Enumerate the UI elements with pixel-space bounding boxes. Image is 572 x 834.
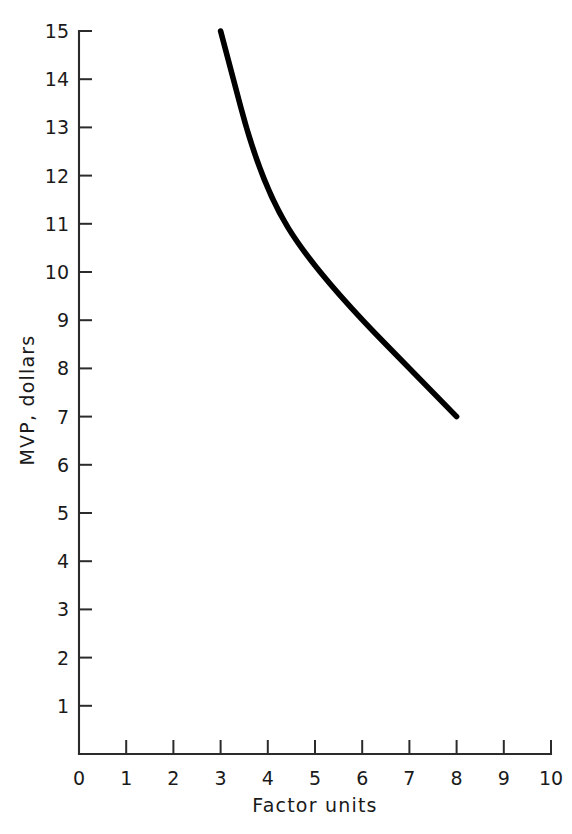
x-tick-label: 8 [451, 767, 463, 789]
x-tick-label: 7 [403, 767, 415, 789]
y-tick-label: 10 [45, 261, 69, 283]
y-tick-label: 12 [45, 165, 69, 187]
y-tick-label: 6 [57, 454, 69, 476]
x-tick-label: 2 [167, 767, 179, 789]
x-tick-label: 0 [73, 767, 85, 789]
y-tick-label: 14 [45, 68, 69, 90]
y-tick-label: 3 [57, 598, 69, 620]
y-tick-label: 13 [45, 116, 69, 138]
y-tick-label: 1 [57, 695, 69, 717]
y-tick-label: 9 [57, 309, 69, 331]
y-tick-label: 8 [57, 357, 69, 379]
data-line-mvp [221, 31, 457, 417]
x-tick-label: 4 [262, 767, 274, 789]
y-tick-label: 4 [57, 550, 69, 572]
x-tick-label: 5 [309, 767, 321, 789]
y-axis-tick-marks [79, 31, 92, 706]
chart-figure: 123456789101112131415 012345678910 MVP, … [0, 0, 572, 834]
y-tick-label: 11 [45, 213, 69, 235]
x-tick-label: 3 [215, 767, 227, 789]
x-tick-label: 10 [539, 767, 563, 789]
y-tick-label: 2 [57, 647, 69, 669]
y-tick-label: 7 [57, 406, 69, 428]
y-axis-title: MVP, dollars [16, 335, 38, 466]
data-series-group [221, 31, 457, 417]
x-axis-tick-labels: 012345678910 [73, 767, 563, 789]
x-axis-tick-marks [126, 740, 551, 754]
x-axis-title: Factor units [252, 794, 377, 816]
x-tick-label: 6 [356, 767, 368, 789]
y-axis-tick-labels: 123456789101112131415 [45, 20, 69, 717]
y-tick-label: 15 [45, 20, 69, 42]
x-tick-label: 9 [498, 767, 510, 789]
x-tick-label: 1 [120, 767, 132, 789]
y-tick-label: 5 [57, 502, 69, 524]
line-chart-svg: 123456789101112131415 012345678910 MVP, … [0, 0, 572, 834]
